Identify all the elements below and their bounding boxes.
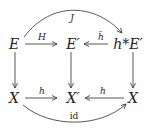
label-h-left: h (39, 87, 45, 96)
label-J: J (70, 14, 74, 23)
commutative-diagram: E E′ h*E′ X X′ X J H h̄ h h id (0, 0, 153, 128)
node-X-right: X (128, 91, 138, 105)
node-E: E (9, 37, 19, 51)
diagram-arrows (0, 0, 153, 128)
label-h-right: h (100, 87, 106, 96)
label-id: id (70, 112, 79, 121)
node-Xprime: X′ (66, 91, 79, 105)
label-hbar: h̄ (98, 33, 104, 42)
node-hstarEprime: h*E′ (113, 37, 142, 51)
label-H: H (38, 33, 46, 42)
node-X-left: X (9, 91, 19, 105)
node-Eprime: E′ (66, 37, 79, 51)
